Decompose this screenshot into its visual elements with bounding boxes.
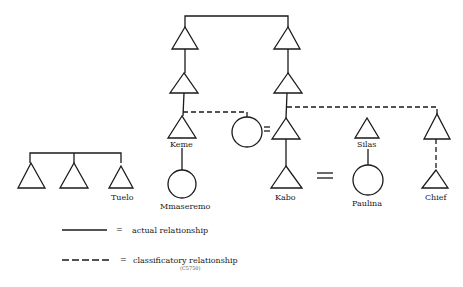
male-triangle-icon: [274, 73, 302, 93]
label-tuelo: Tuelo: [111, 193, 134, 202]
legend-actual-equals: =: [116, 225, 123, 234]
male-triangle-tuelo-icon: [109, 166, 133, 188]
male-triangle-chief-icon: [422, 170, 448, 188]
legend: = actual relationship = classificatory r…: [62, 225, 238, 271]
left-sibling-group: [18, 153, 133, 188]
marriage-equals-icon: [264, 127, 270, 131]
classificatory-link: [183, 112, 247, 117]
female-circle-icon: [232, 117, 262, 147]
male-triangle-keme-icon: [168, 116, 196, 138]
male-triangle-icon: [274, 27, 300, 49]
classificatory-link-chief: [287, 107, 437, 114]
label-chief: Chief: [425, 193, 448, 202]
legend-classificatory-text: classificatory relationship: [133, 256, 238, 265]
label-mmaseremo: Mmaseremo: [160, 202, 211, 211]
top-sibling-connector: [185, 16, 288, 27]
label-keme: Keme: [170, 140, 193, 149]
kinship-diagram: Tuelo Keme Mmaseremo Kabo Silas Paulina …: [0, 0, 463, 287]
female-circle-mmaseremo-icon: [168, 170, 196, 198]
legend-classificatory-equals: =: [120, 255, 127, 264]
figure-tag: (C5750): [180, 265, 201, 271]
label-paulina: Paulina: [352, 199, 382, 208]
legend-actual-text: actual relationship: [132, 226, 208, 235]
male-triangle-icon: [60, 163, 88, 188]
female-circle-paulina-icon: [353, 165, 383, 195]
male-triangle-icon: [18, 163, 45, 188]
label-silas: Silas: [357, 140, 376, 149]
male-triangle-icon: [424, 114, 450, 139]
label-kabo: Kabo: [275, 193, 296, 202]
male-triangle-kabo-icon: [271, 166, 302, 188]
marriage-equals-icon: [317, 173, 333, 178]
male-triangle-icon: [272, 118, 300, 139]
male-triangle-icon: [170, 73, 198, 93]
male-triangle-silas-icon: [355, 118, 379, 138]
male-triangle-icon: [172, 27, 198, 49]
